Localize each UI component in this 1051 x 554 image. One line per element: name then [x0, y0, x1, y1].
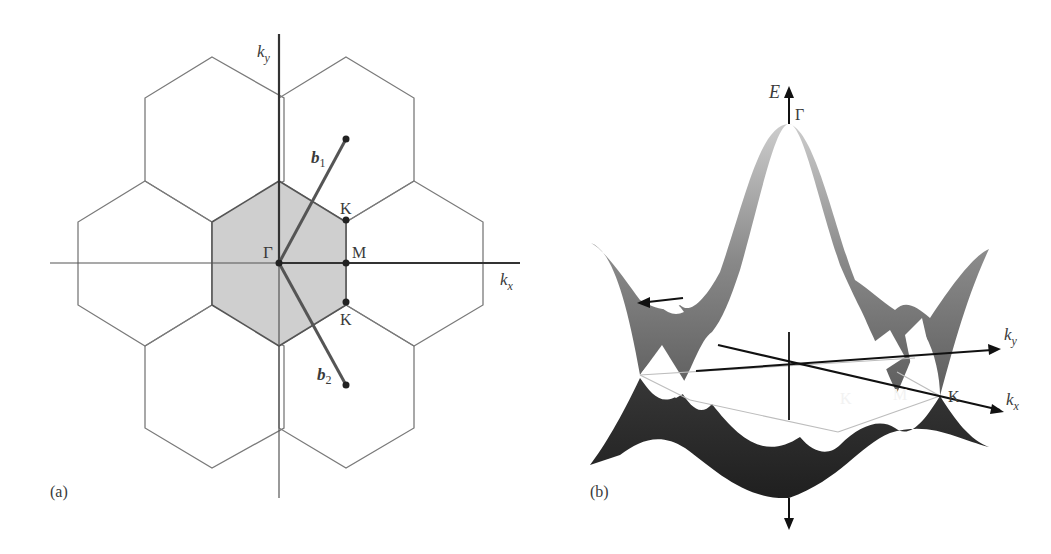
- b1-endpoint: [343, 136, 350, 143]
- ky-label-3d: ky: [1004, 325, 1018, 348]
- b2-label: b2: [317, 365, 332, 387]
- panel-a-brillouin-zone: ky kx Γ M K K b1 b2 (a): [50, 34, 520, 501]
- b2-endpoint: [343, 382, 350, 389]
- k-lower-label: K: [340, 311, 352, 328]
- figure-canvas: ky kx Γ M K K b1 b2 (a): [0, 0, 1051, 554]
- kx-label: kx: [500, 270, 514, 293]
- b1-label: b1: [311, 148, 326, 170]
- gamma-point: [276, 260, 283, 267]
- panel-b-band-structure: E Γ ky kx K K M (b): [590, 82, 1020, 530]
- k-right-label-3d: K: [948, 388, 960, 405]
- energy-axis-arrowhead: [784, 86, 794, 98]
- energy-label: E: [768, 82, 780, 102]
- kx-arrowhead: [990, 404, 1004, 414]
- ky-arrowhead: [988, 344, 1001, 355]
- k-point-upper: [343, 217, 350, 224]
- m-label: M: [352, 244, 366, 261]
- ky-label: ky: [257, 42, 271, 65]
- m-point: [343, 260, 350, 267]
- k-point-lower: [343, 299, 350, 306]
- energy-axis-down-arrowhead: [784, 518, 794, 530]
- ky-axis-3d-back: [648, 298, 683, 302]
- gamma-label-3d: Γ: [795, 106, 804, 123]
- panel-b-label: (b): [590, 483, 609, 501]
- k-upper-label: K: [340, 200, 352, 217]
- k-front-label-3d: K: [840, 390, 852, 407]
- panel-a-label: (a): [50, 483, 68, 501]
- gamma-label: Γ: [263, 243, 273, 262]
- m-label-3d: M: [893, 386, 907, 403]
- kx-label-3d: kx: [1006, 390, 1020, 413]
